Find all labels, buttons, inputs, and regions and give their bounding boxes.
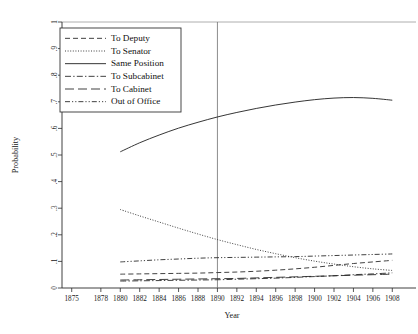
x-tick-label: 1882	[133, 295, 148, 303]
y-tick-label: .9	[51, 45, 59, 51]
y-tick-label: .6	[51, 125, 59, 131]
x-tick-label: 1886	[171, 295, 186, 303]
x-tick-label: 1875	[65, 295, 80, 303]
x-tick-label: 1894	[249, 295, 264, 303]
y-tick-label: .2	[51, 232, 59, 238]
x-tick-label: 1878	[94, 295, 109, 303]
series-line-to-cabinet	[120, 274, 392, 280]
legend-label: Same Position	[111, 58, 164, 68]
x-tick-label: 1904	[346, 295, 361, 303]
x-tick-label: 1892	[230, 295, 245, 303]
legend-label: To Senator	[111, 46, 151, 56]
x-tick-label: 1898	[288, 295, 303, 303]
x-tick-label: 1880	[113, 295, 128, 303]
legend-label: To Cabinet	[111, 84, 152, 94]
x-tick-label: 1888	[191, 295, 206, 303]
chart-legend: To DeputyTo SenatorSame PositionTo Subca…	[60, 28, 181, 112]
series-line-to-senator	[120, 210, 392, 271]
y-tick-label: 0	[51, 286, 59, 290]
series-line-to-deputy	[120, 260, 392, 274]
legend-label: To Deputy	[111, 33, 150, 43]
x-tick-label: 1908	[385, 295, 400, 303]
x-tick-label: 1884	[152, 295, 167, 303]
series-line-out-of-office	[120, 254, 392, 262]
x-tick-label: 1902	[327, 295, 342, 303]
x-axis-title: Year	[224, 311, 239, 320]
y-tick-label: .7	[51, 99, 59, 105]
y-tick-label: 1	[51, 20, 59, 24]
y-tick-label: .4	[51, 178, 59, 184]
x-tick-label: 1906	[366, 295, 381, 303]
legend-label: Out of Office	[111, 96, 160, 106]
y-tick-label: .3	[51, 205, 59, 211]
x-tick-label: 1900	[307, 295, 322, 303]
x-tick-label: 1890	[210, 295, 225, 303]
chart-canvas: 0.1.2.3.4.5.6.7.8.91Probability187518781…	[0, 0, 418, 334]
probability-line-chart: 0.1.2.3.4.5.6.7.8.91Probability187518781…	[0, 0, 418, 334]
y-tick-label: .5	[51, 152, 59, 158]
y-axis-title: Probability	[11, 136, 20, 173]
y-tick-label: .1	[51, 258, 59, 264]
y-tick-label: .8	[51, 72, 59, 78]
legend-label: To Subcabinet	[111, 71, 164, 81]
x-tick-label: 1896	[269, 295, 284, 303]
